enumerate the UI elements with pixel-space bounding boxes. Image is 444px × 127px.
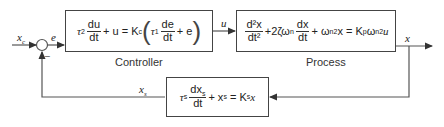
controller-equation: τ2 dudt + u = Kc ( τ1 dedt + e ) <box>77 18 201 44</box>
process-label: Process <box>306 56 346 68</box>
controller-block: τ2 dudt + u = Kc ( τ1 dedt + e ) <box>65 10 213 52</box>
setpoint-label: xc <box>17 31 25 46</box>
output-to-sensor-wire <box>270 46 409 97</box>
measured-label: xs <box>139 83 147 98</box>
sensor-equation: τs dxsdt + xs = Ksx <box>180 84 255 110</box>
output-label: x <box>405 32 410 44</box>
controller-label: Controller <box>115 56 163 68</box>
control-signal-label: u <box>221 17 227 29</box>
sensor-block: τs dxsdt + xs = Ksx <box>166 77 269 117</box>
summing-junction <box>37 40 48 51</box>
process-block: d²xdt² +2ζωn dxdt + ωn2 x = Kp ωn2 u <box>236 10 396 52</box>
error-label: e <box>51 31 56 43</box>
minus-sign: − <box>44 50 50 62</box>
process-equation: d²xdt² +2ζωn dxdt + ωn2 x = Kp ωn2 u <box>243 19 388 43</box>
